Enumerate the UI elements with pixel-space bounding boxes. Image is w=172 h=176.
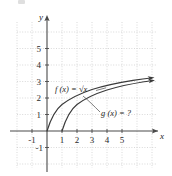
graph-figure: 5 4 3 2 1 -1 -1 1 2 3 4 5 y x f (x) = √x [0, 0, 172, 176]
g-label-text: g (x) = ? [101, 108, 132, 118]
scan-artifact [18, 0, 25, 4]
x-tick-label-4: 4 [105, 135, 110, 145]
x-tick-label-neg1: -1 [28, 135, 36, 145]
y-tick-label-2: 2 [37, 93, 42, 103]
y-axis-label: y [38, 12, 43, 22]
f-label-text: f (x) = √x [55, 84, 88, 94]
y-tick-label-neg1: -1 [36, 143, 44, 153]
x-tick-label-1: 1 [60, 135, 65, 145]
x-tick-label-3: 3 [90, 135, 95, 145]
y-tick-label-5: 5 [37, 44, 42, 54]
x-axis-label: x [159, 131, 164, 141]
y-tick-label-3: 3 [37, 77, 42, 87]
g-leader-line [83, 96, 100, 112]
x-tick-label-5: 5 [120, 135, 125, 145]
graph-canvas: 5 4 3 2 1 -1 -1 1 2 3 4 5 y x f (x) = √x [0, 0, 172, 176]
x-tick-label-2: 2 [75, 135, 80, 145]
y-tick-label-4: 4 [37, 60, 42, 70]
y-tick-label-1: 1 [37, 110, 42, 120]
